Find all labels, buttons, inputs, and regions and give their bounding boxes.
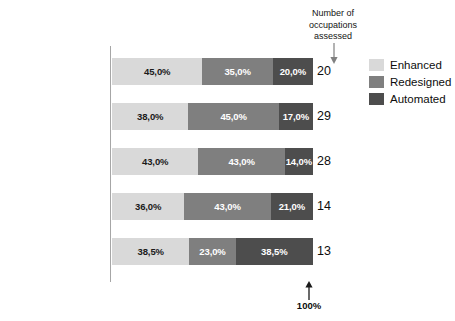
legend-label: Redesigned <box>390 76 451 88</box>
stacked-bar-chart: Number of occupations assessed Explorati… <box>0 0 455 321</box>
chart-legend: EnhancedRedesignedAutomated <box>369 57 451 108</box>
bar-segment-enhanced: 45,0% <box>112 58 202 85</box>
legend-item[interactable]: Automated <box>369 91 451 107</box>
bar-segment-redesigned: 45,0% <box>188 103 278 130</box>
stacked-bar: 36,0%43,0%21,0% <box>112 193 313 220</box>
stacked-bar: 45,0%35,0%20,0% <box>112 58 313 85</box>
bar-segment-redesigned: 35,0% <box>202 58 272 85</box>
occupation-count: 29 <box>317 103 331 130</box>
stacked-bar: 38,5%23,0%38,5% <box>112 238 313 265</box>
bar-segment-enhanced: 36,0% <box>112 193 184 220</box>
legend-swatch-icon <box>369 59 384 71</box>
legend-swatch-icon <box>369 93 384 105</box>
occupation-count: 28 <box>317 148 331 175</box>
annotation-100-percent: 100% <box>274 300 344 311</box>
bar-segment-automated: 14,0% <box>285 148 313 175</box>
stacked-bar: 38,0%45,0%17,0% <box>112 103 313 130</box>
chart-row: Exploration45,0%35,0%20,0%20 <box>0 58 340 85</box>
legend-item[interactable]: Enhanced <box>369 57 451 73</box>
occupation-count: 20 <box>317 58 331 85</box>
chart-row: Processing43,0%43,0%14,0%28 <box>0 148 340 175</box>
legend-item[interactable]: Redesigned <box>369 74 451 90</box>
bar-segment-redesigned: 43,0% <box>184 193 270 220</box>
bar-segment-enhanced: 43,0% <box>112 148 198 175</box>
annotation-arrow-up-icon <box>303 281 315 300</box>
bar-segment-automated: 38,5% <box>236 238 313 265</box>
chart-row: Mining Operations38,0%45,0%17,0%29 <box>0 103 340 130</box>
chart-row: Transport36,0%43,0%21,0%14 <box>0 193 340 220</box>
bar-rows: Exploration45,0%35,0%20,0%20Mining Opera… <box>0 0 455 321</box>
bar-segment-automated: 20,0% <box>273 58 313 85</box>
legend-swatch-icon <box>369 76 384 88</box>
legend-label: Automated <box>390 93 446 105</box>
legend-label: Enhanced <box>390 59 442 71</box>
chart-row: Trading38,5%23,0%38,5%13 <box>0 238 340 265</box>
bar-segment-redesigned: 43,0% <box>198 148 284 175</box>
bar-segment-automated: 21,0% <box>271 193 313 220</box>
bar-segment-redesigned: 23,0% <box>189 238 235 265</box>
stacked-bar: 43,0%43,0%14,0% <box>112 148 313 175</box>
occupation-count: 14 <box>317 193 331 220</box>
bar-segment-automated: 17,0% <box>279 103 313 130</box>
bar-segment-enhanced: 38,0% <box>112 103 188 130</box>
bar-segment-enhanced: 38,5% <box>112 238 189 265</box>
occupation-count: 13 <box>317 238 331 265</box>
